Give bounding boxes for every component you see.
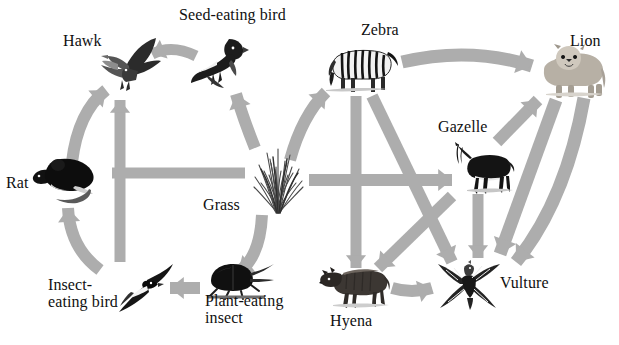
label-gazelle: Gazelle: [438, 119, 488, 136]
label-lion: Lion: [570, 33, 601, 50]
label-hawk: Hawk: [63, 33, 102, 50]
arrow-gazelle-to-vulture-head: [468, 245, 488, 258]
label-seed-eating-bird: Seed-eating bird: [179, 7, 286, 24]
label-insect-eating-bird: Insect- eating bird: [48, 277, 118, 311]
vulture-icon: [434, 260, 502, 310]
lion-icon: [534, 42, 606, 98]
zebra-icon: [326, 42, 400, 94]
rat-icon: [31, 150, 101, 206]
hyena-icon: [319, 263, 391, 309]
gazelle-icon: [455, 142, 515, 194]
label-rat: Rat: [6, 175, 29, 192]
arrow-grass-to-gazelle-head: [438, 169, 452, 191]
label-grass: Grass: [203, 197, 240, 214]
seed-eating-bird-icon: [187, 35, 249, 93]
arrow-zebra-to-lion: [402, 55, 532, 66]
insect-eating-bird-icon: [111, 262, 175, 314]
grass-icon: [247, 145, 309, 215]
label-zebra: Zebra: [361, 22, 399, 39]
label-hyena: Hyena: [330, 313, 372, 330]
food-web-diagram: Hawk Seed-eating bird Rat Grass Insect- …: [0, 0, 619, 345]
label-vulture: Vulture: [500, 275, 549, 292]
label-plant-eating-insect: Plant-eating insect: [205, 293, 284, 327]
hawk-icon: [96, 36, 162, 92]
arrow-insectbird-to-hawk-head: [110, 100, 130, 113]
arrow-insectbird-to-rat-head: [58, 208, 80, 223]
